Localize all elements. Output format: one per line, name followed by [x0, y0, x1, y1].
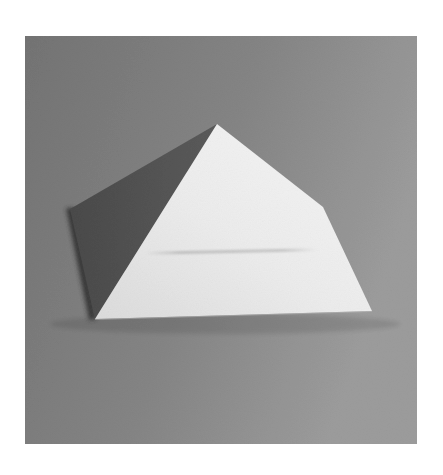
photo [25, 36, 417, 444]
pyramid-photo [25, 36, 417, 444]
